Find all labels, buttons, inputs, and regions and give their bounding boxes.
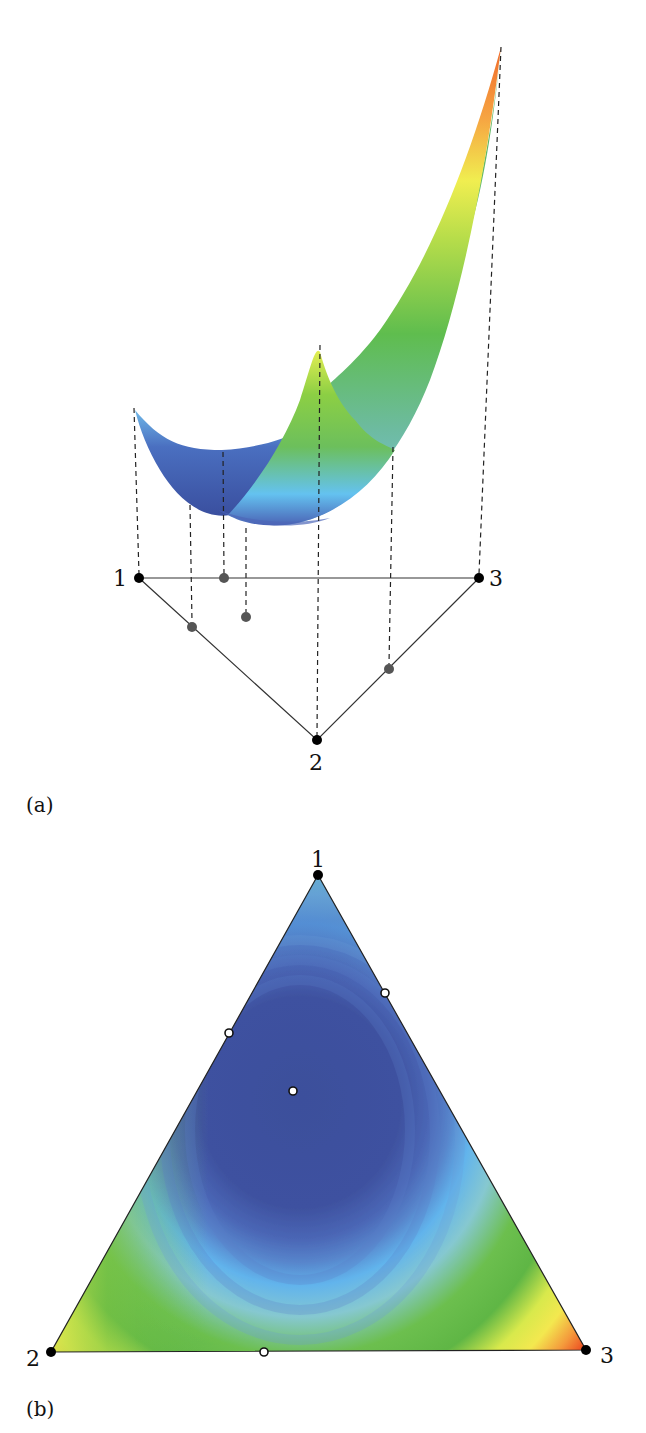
panel-a-label: (a)	[26, 793, 54, 817]
panel-a-surface	[135, 47, 501, 526]
projected-point	[241, 612, 251, 622]
projected-point	[219, 573, 229, 583]
vertex-1-label: 1	[311, 847, 325, 872]
vertex-2-label: 2	[26, 1346, 40, 1371]
vertex-3-label: 3	[489, 566, 503, 591]
projected-point	[187, 622, 197, 632]
panel-a-simplex	[134, 573, 484, 745]
vertex-3-marker	[581, 1345, 591, 1355]
vertex-1-marker	[134, 573, 144, 583]
vertex-3-marker	[474, 573, 484, 583]
figure-canvas: 1 3 2 (a) 1 2 3 (b)	[0, 0, 646, 1433]
vertex-2-marker	[312, 735, 322, 745]
panel-b-contour	[40, 860, 600, 1360]
vertex-3-label: 3	[600, 1343, 614, 1368]
vertex-2-label: 2	[309, 750, 323, 775]
projected-point	[384, 664, 394, 674]
vertex-2-marker	[46, 1347, 56, 1357]
vertex-1-label: 1	[113, 566, 127, 591]
panel-b-label: (b)	[26, 1397, 54, 1421]
